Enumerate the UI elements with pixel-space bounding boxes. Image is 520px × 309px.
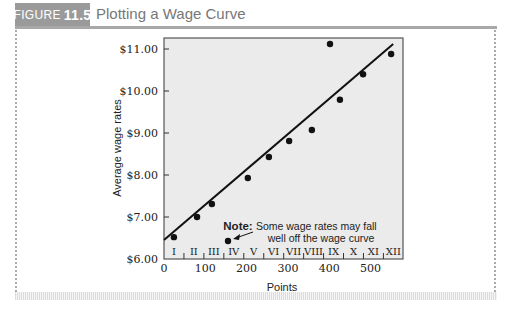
y-tick-label: $8.00 xyxy=(127,169,159,182)
y-tick-label: $9.00 xyxy=(127,127,159,140)
data-point xyxy=(388,51,394,57)
x-tick-label: 300 xyxy=(277,262,298,275)
grade-label: III xyxy=(208,246,220,257)
grade-label: XII xyxy=(386,246,401,257)
data-point xyxy=(194,214,200,220)
x-tick-label: 200 xyxy=(236,262,257,275)
note-line-1: Note: Some wage rates may fall xyxy=(223,220,376,232)
data-point xyxy=(209,201,215,207)
x-tick-label: 0 xyxy=(161,262,168,275)
data-point xyxy=(309,127,315,133)
y-tick-label: $10.00 xyxy=(120,85,159,98)
grade-label: IX xyxy=(328,246,340,257)
grade-label: VI xyxy=(267,246,279,257)
data-point xyxy=(360,71,366,77)
grade-label: X xyxy=(350,246,358,257)
x-tick-label: 100 xyxy=(195,262,216,275)
data-point xyxy=(245,175,251,181)
grade-label: VII xyxy=(285,246,301,257)
grade-label: IV xyxy=(228,246,240,257)
x-axis-label: Points xyxy=(267,281,298,293)
data-point xyxy=(171,234,177,240)
data-point xyxy=(286,138,292,144)
y-axis-label: Average wage rates xyxy=(111,99,123,197)
data-point xyxy=(266,154,272,160)
data-point xyxy=(327,41,333,47)
data-point xyxy=(337,97,343,103)
grade-label: V xyxy=(249,246,258,257)
x-tick-label: 500 xyxy=(360,262,381,275)
data-point xyxy=(225,238,231,244)
wage-curve-chart: $6.00$7.00$8.00$9.00$10.00$11.00 0100200… xyxy=(0,0,520,309)
x-axis: 0100200300400500 xyxy=(161,262,382,275)
grade-label: XI xyxy=(368,246,379,257)
x-tick-label: 400 xyxy=(319,262,340,275)
grade-label: I xyxy=(172,246,176,257)
y-axis: $6.00$7.00$8.00$9.00$10.00$11.00 xyxy=(120,43,170,266)
grade-label: VIII xyxy=(303,246,323,257)
note-line-2: well off the wage curve xyxy=(267,232,375,244)
grade-label: II xyxy=(190,246,198,257)
y-tick-label: $11.00 xyxy=(120,43,159,56)
y-tick-label: $6.00 xyxy=(127,253,159,266)
y-tick-label: $7.00 xyxy=(127,211,159,224)
